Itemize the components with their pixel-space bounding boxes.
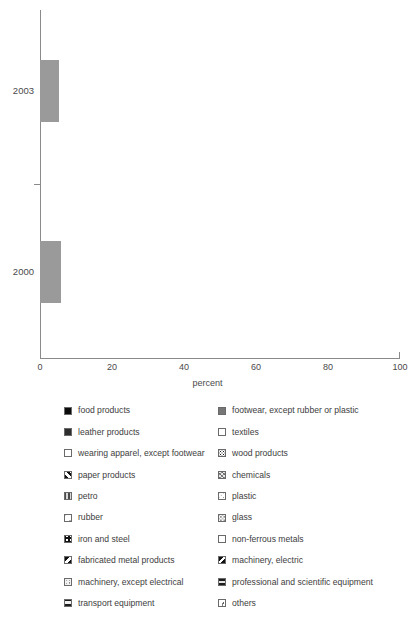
legend-swatch-icon xyxy=(218,514,226,522)
legend-swatch-icon xyxy=(218,407,226,415)
legend-label: chemicals xyxy=(232,471,270,480)
legend-item[interactable]: food products xyxy=(64,400,214,421)
legend-item[interactable]: iron and steel xyxy=(64,528,214,549)
x-tick-label-80: 80 xyxy=(313,362,343,372)
legend-swatch-icon xyxy=(218,471,226,479)
x-tick-label-20: 20 xyxy=(97,362,127,372)
legend-swatch-icon xyxy=(64,599,72,607)
legend-item[interactable]: professional and scientific equipment xyxy=(218,571,413,592)
legend-label: leather products xyxy=(78,428,140,437)
legend-swatch-icon xyxy=(64,407,72,415)
legend-swatch-icon xyxy=(218,599,226,607)
legend-item[interactable]: leather products xyxy=(64,421,214,442)
legend-label: footwear, except rubber or plastic xyxy=(232,406,359,415)
legend-swatch-icon xyxy=(64,578,72,586)
legend-label: glass xyxy=(232,513,252,522)
legend-swatch-icon xyxy=(64,514,72,522)
y-axis-tick xyxy=(34,184,40,185)
legend-swatch-icon xyxy=(64,449,72,457)
x-tick-label-60: 60 xyxy=(241,362,271,372)
legend-column-right: footwear, except rubber or plastictextil… xyxy=(218,400,413,614)
legend-item[interactable]: rubber xyxy=(64,507,214,528)
legend-item[interactable]: machinery, except electrical xyxy=(64,571,214,592)
legend-label: textiles xyxy=(232,428,259,437)
legend-swatch-icon xyxy=(218,428,226,436)
x-tick-label-0: 0 xyxy=(25,362,55,372)
legend-item[interactable]: wearing apparel, except footwear xyxy=(64,443,214,464)
plot-area: 2003 2000 0 20 40 60 80 100 percent xyxy=(0,0,415,400)
legend-swatch-icon xyxy=(218,578,226,586)
legend-swatch-icon xyxy=(64,535,72,543)
legend-column-left: food productsleather productswearing app… xyxy=(64,400,214,614)
legend-label: wood products xyxy=(232,449,288,458)
bar-segment[interactable] xyxy=(57,61,58,121)
legend-label: transport equipment xyxy=(78,599,154,608)
legend-item[interactable]: fabricated metal products xyxy=(64,550,214,571)
year-label-2003: 2003 xyxy=(0,85,34,96)
x-axis-line xyxy=(40,358,400,359)
legend-label: petro xyxy=(78,492,98,501)
legend-swatch-icon xyxy=(64,492,72,500)
legend-swatch-icon xyxy=(218,556,226,564)
legend-label: others xyxy=(232,599,256,608)
legend-label: food products xyxy=(78,406,130,415)
x-tick-label-40: 40 xyxy=(169,362,199,372)
bar-2000[interactable] xyxy=(40,241,61,303)
legend-item[interactable]: footwear, except rubber or plastic xyxy=(218,400,413,421)
legend-label: rubber xyxy=(78,513,103,522)
stacked-bar-chart: 2003 2000 0 20 40 60 80 100 percent food… xyxy=(0,0,415,618)
legend-label: professional and scientific equipment xyxy=(232,578,373,587)
legend-item[interactable]: paper products xyxy=(64,464,214,485)
legend-label: non-ferrous metals xyxy=(232,535,304,544)
legend-swatch-icon xyxy=(218,449,226,457)
legend-item[interactable]: transport equipment xyxy=(64,593,214,614)
year-label-2000: 2000 xyxy=(0,266,34,277)
legend-label: machinery, electric xyxy=(232,556,303,565)
legend-label: machinery, except electrical xyxy=(78,578,183,587)
legend-label: fabricated metal products xyxy=(78,556,175,565)
legend-label: wearing apparel, except footwear xyxy=(78,449,205,458)
legend-swatch-icon xyxy=(64,556,72,564)
legend-item[interactable]: non-ferrous metals xyxy=(218,528,413,549)
x-axis-right-cap xyxy=(399,352,400,359)
legend-label: iron and steel xyxy=(78,535,130,544)
legend-item[interactable]: textiles xyxy=(218,421,413,442)
legend-swatch-icon xyxy=(218,535,226,543)
legend-swatch-icon xyxy=(218,492,226,500)
x-axis-title: percent xyxy=(0,378,415,388)
legend-item[interactable]: wood products xyxy=(218,443,413,464)
x-tick-label-100: 100 xyxy=(385,362,415,372)
bar-2003[interactable] xyxy=(40,60,59,122)
bar-segment[interactable] xyxy=(59,242,60,302)
legend-item[interactable]: machinery, electric xyxy=(218,550,413,571)
legend-item[interactable]: petro xyxy=(64,486,214,507)
x-axis-left-cap xyxy=(40,352,41,359)
legend-item[interactable]: others xyxy=(218,593,413,614)
legend-swatch-icon xyxy=(64,428,72,436)
chart-legend: food productsleather productswearing app… xyxy=(0,400,415,618)
legend-item[interactable]: chemicals xyxy=(218,464,413,485)
legend-label: plastic xyxy=(232,492,256,501)
legend-item[interactable]: plastic xyxy=(218,486,413,507)
legend-label: paper products xyxy=(78,471,135,480)
legend-swatch-icon xyxy=(64,471,72,479)
legend-item[interactable]: glass xyxy=(218,507,413,528)
